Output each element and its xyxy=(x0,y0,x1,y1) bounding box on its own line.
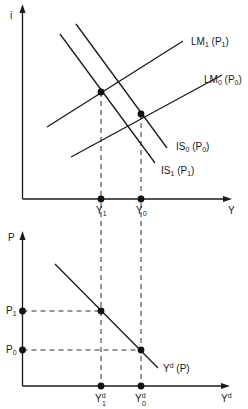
y0-axis-dot xyxy=(138,196,145,203)
lm0-label: LM0 (P0) xyxy=(204,74,242,86)
p1-axis-dot xyxy=(19,308,26,315)
p-axis-label: P xyxy=(8,232,15,243)
lm1-curve xyxy=(47,41,183,127)
y-axis-arrow-icon xyxy=(223,196,232,202)
aggregate-demand-panel: P Yd P1 P0 Yd (P) Yd 1 Y xyxy=(6,231,232,407)
equilibrium-1-dot xyxy=(98,89,105,96)
yd-axis-arrow-icon xyxy=(221,383,230,389)
equilibrium-0-dot xyxy=(138,111,145,118)
p-axis-arrow-icon xyxy=(20,231,26,240)
ad-point-1-dot xyxy=(98,308,105,315)
yd-axis-label: Yd xyxy=(221,392,232,404)
is1-label: IS1 (P1) xyxy=(161,165,194,177)
y-axis-label: Y xyxy=(228,205,235,216)
yd0-tick-sub: 0 xyxy=(142,400,146,407)
ad-point-0-dot xyxy=(138,347,145,354)
is0-label: IS0 (P0) xyxy=(176,141,209,153)
aggregate-demand-label: Yd (P) xyxy=(163,362,190,374)
yd1-tick-sub: 1 xyxy=(102,400,106,407)
is-lm-ad-diagram: i Y LM1 (P1) LM0 (P0) IS0 (P0) IS1 (P1) … xyxy=(0,0,248,409)
is-lm-panel: i Y LM1 (P1) LM0 (P0) IS0 (P0) IS1 (P1) … xyxy=(10,4,242,217)
p0-axis-dot xyxy=(19,347,26,354)
i-axis-arrow-icon xyxy=(20,4,26,13)
yd0-axis-dot xyxy=(138,383,145,390)
i-axis-label: i xyxy=(10,10,12,21)
p1-tick-label: P1 xyxy=(6,305,17,317)
p0-tick-label: P0 xyxy=(6,344,17,356)
lm1-label: LM1 (P1) xyxy=(191,36,229,48)
yd1-axis-dot xyxy=(98,383,105,390)
y1-axis-dot xyxy=(98,196,105,203)
